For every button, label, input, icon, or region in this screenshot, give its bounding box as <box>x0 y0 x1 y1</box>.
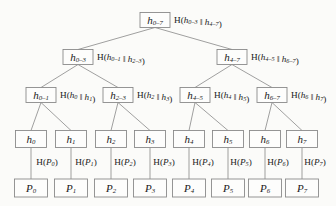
edge-h2-3-to-h3 <box>118 103 150 131</box>
edge-h0-1-to-h0 <box>31 103 41 131</box>
hash-label-HP5: H(P5) <box>230 157 251 168</box>
edge-h0-3-to-h0-1 <box>41 65 78 88</box>
node-layer: h0–7h0–3h4–7h0–1h2–3h4–5h6–7h0h1h2h3h4h5… <box>15 13 319 198</box>
node-h2-3: h2–3 <box>103 88 133 103</box>
formula-h4-7: H(h4–5 ‖ h6–7) <box>251 52 299 66</box>
edge-h0-3-to-h2-3 <box>78 65 118 88</box>
formula-h6-7: H(h6 ‖ h7) <box>291 90 326 104</box>
leaf-hash-h6: h6 <box>250 131 281 148</box>
formula-h0-1: H(h0 ‖ h1) <box>60 90 95 104</box>
hash-label-HP3: H(P3) <box>153 157 174 168</box>
formula-h0-3: H(h0–1 ‖ h2–3) <box>97 52 145 66</box>
node-root: h0–7 <box>140 13 170 28</box>
merkle-tree-svg: h0–7h0–3h4–7h0–1h2–3h4–5h6–7h0h1h2h3h4h5… <box>0 0 336 206</box>
node-h4-5: h4–5 <box>180 88 210 103</box>
data-block-P0: P0 <box>15 179 48 197</box>
leaf-hash-h4: h4 <box>174 131 205 148</box>
leaf-hash-h7: h7 <box>287 131 318 148</box>
node-h4-7: h4–7 <box>217 50 247 65</box>
hash-label-HP4: H(P4) <box>192 157 213 168</box>
node-h6-7: h6–7 <box>257 88 287 103</box>
data-block-P4: P4 <box>173 179 206 197</box>
edge-root-to-h4-7 <box>155 28 232 50</box>
data-block-P6: P6 <box>249 179 282 197</box>
node-h0-3: h0–3 <box>63 50 93 65</box>
data-block-P3: P3 <box>134 179 167 197</box>
data-block-P7: P7 <box>286 179 319 197</box>
data-block-P2: P2 <box>95 179 128 197</box>
data-block-P5: P5 <box>212 179 245 197</box>
edge-h6-7-to-h7 <box>272 103 302 131</box>
node-h0-1: h0–1 <box>26 88 56 103</box>
leaf-hash-h3: h3 <box>135 131 166 148</box>
edge-h4-7-to-h4-5 <box>195 65 232 88</box>
hash-label-HP0: H(P0) <box>36 157 57 168</box>
edge-h4-7-to-h6-7 <box>232 65 272 88</box>
leaf-hash-h5: h5 <box>213 131 244 148</box>
formula-h4-5: H(h4 ‖ h5) <box>214 90 249 104</box>
hash-label-HP2: H(P2) <box>114 157 135 168</box>
merkle-tree-diagram: h0–7h0–3h4–7h0–1h2–3h4–5h6–7h0h1h2h3h4h5… <box>0 0 336 206</box>
formula-root: H(h0–3 ‖ h4–7) <box>174 15 222 29</box>
leaf-hash-h1: h1 <box>56 131 87 148</box>
leaf-hash-h0: h0 <box>16 131 47 148</box>
hash-label-HP7: H(P7) <box>304 157 325 168</box>
data-block-P1: P1 <box>55 179 88 197</box>
edge-h2-3-to-h2 <box>111 103 118 131</box>
edge-root-to-h0-3 <box>78 28 155 50</box>
hash-label-HP6: H(P6) <box>267 157 288 168</box>
hash-label-HP1: H(P1) <box>75 157 96 168</box>
formula-h2-3: H(h2 ‖ h3) <box>137 90 172 104</box>
edge-h4-5-to-h4 <box>189 103 195 131</box>
leaf-hash-h2: h2 <box>96 131 127 148</box>
edge-h4-5-to-h5 <box>195 103 228 131</box>
edge-h6-7-to-h6 <box>265 103 272 131</box>
edge-h0-1-to-h1 <box>41 103 71 131</box>
